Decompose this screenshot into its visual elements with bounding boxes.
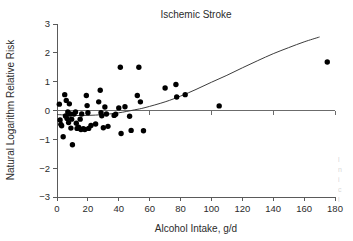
data-points	[57, 59, 330, 147]
y-axis-tick-label: −3	[39, 191, 50, 202]
data-point	[57, 101, 62, 106]
data-point	[69, 116, 74, 121]
data-point	[128, 128, 133, 133]
scatter-plot-svg: Ischemic Stroke Natural Logarithm Relati…	[0, 0, 353, 241]
data-point	[138, 99, 143, 104]
data-point	[101, 125, 106, 130]
y-axis-tick-label: 0	[45, 105, 50, 116]
y-axis-tick-label: −1	[39, 134, 50, 145]
data-point	[141, 128, 146, 133]
y-axis-tick-label: 3	[45, 18, 50, 29]
fitted-curve	[57, 37, 320, 116]
x-axis-tick-label: 0	[54, 203, 59, 214]
x-axis-tick-label: 140	[265, 203, 281, 214]
x-axis-tick-label: 120	[234, 203, 250, 214]
y-axis-tick-label: 2	[45, 47, 50, 58]
cropped-edge-text-line: l	[338, 155, 352, 165]
data-point	[79, 111, 84, 116]
data-point	[93, 121, 98, 126]
x-axis-title: Alcohol Intake, g/d	[155, 223, 237, 234]
data-point	[84, 93, 89, 98]
chart-title: Ischemic Stroke	[160, 9, 232, 20]
data-point	[73, 109, 78, 114]
y-axis-title: Natural Logarithm Relative Risk	[5, 39, 16, 181]
data-point	[104, 111, 109, 116]
data-point	[84, 103, 89, 108]
cropped-edge-text-line: c	[338, 185, 352, 195]
x-axis: 020406080100120140160180	[54, 197, 343, 214]
x-axis-tick-label: 60	[144, 203, 155, 214]
cropped-edge-text-line: n	[338, 165, 352, 175]
x-axis-tick-label: 160	[296, 203, 312, 214]
data-point	[162, 85, 167, 90]
data-point	[62, 92, 67, 97]
data-point	[116, 105, 121, 110]
cropped-edge-text: lnicl	[338, 155, 352, 235]
data-point	[68, 125, 73, 130]
data-point	[67, 101, 72, 106]
data-point	[136, 65, 141, 70]
chart-figure: Ischemic Stroke Natural Logarithm Relati…	[0, 0, 353, 241]
y-axis-tick-label: 1	[45, 76, 50, 87]
data-point	[88, 123, 93, 128]
cropped-edge-text-line: i	[338, 175, 352, 185]
data-point	[102, 104, 107, 109]
data-point	[174, 94, 179, 99]
y-axis-tick-label: −2	[39, 163, 50, 174]
data-point	[85, 110, 90, 115]
cropped-edge-text-line: l	[338, 195, 352, 205]
data-point	[122, 104, 127, 109]
data-point	[96, 99, 101, 104]
x-axis-tick-label: 40	[113, 203, 124, 214]
data-point	[216, 103, 221, 108]
data-point	[70, 142, 75, 147]
data-point	[173, 82, 178, 87]
data-point	[118, 65, 123, 70]
data-point	[59, 123, 64, 128]
data-point	[127, 114, 132, 119]
data-point	[98, 88, 103, 93]
data-point	[182, 92, 187, 97]
x-axis-tick-label: 20	[83, 203, 94, 214]
data-point	[325, 59, 330, 64]
data-point	[113, 112, 118, 117]
data-point	[99, 113, 104, 118]
data-point	[135, 93, 140, 98]
x-axis-tick-label: 80	[175, 203, 186, 214]
data-point	[105, 124, 110, 129]
data-point	[60, 134, 65, 139]
x-axis-tick-label: 100	[204, 203, 220, 214]
y-axis: 3210−1−2−3	[39, 18, 57, 202]
data-point	[77, 116, 82, 121]
fitted-curve-path	[57, 37, 320, 116]
data-point	[118, 131, 123, 136]
